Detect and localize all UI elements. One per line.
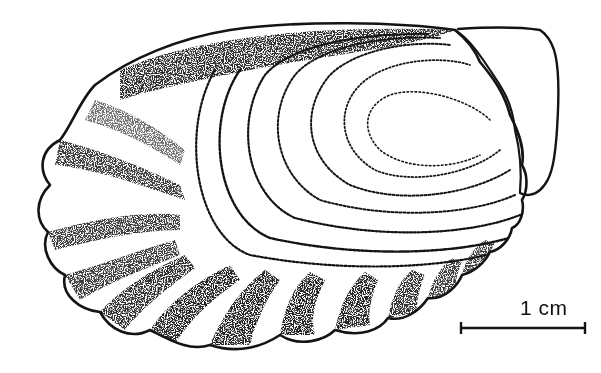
- shell-outline: [38, 23, 526, 349]
- shell-illustration: [0, 0, 601, 373]
- scale-bar: [461, 322, 585, 334]
- scale-bar-label: 1 cm: [520, 296, 568, 320]
- shell-inner-margin: [455, 30, 521, 192]
